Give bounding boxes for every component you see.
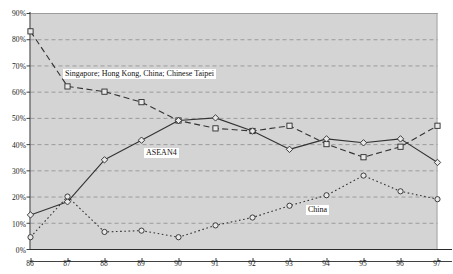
x-axis-tick-94: 94: [314, 259, 338, 268]
series-label-asean4: ASEAN4: [144, 148, 179, 158]
data-point-0-2: [102, 89, 107, 94]
data-point-2-8: [324, 193, 329, 198]
y-axis-tick-30: 30%: [2, 167, 26, 176]
chart-container: 90% 80% 70% 60% 50% 40% 30% 20% 10% 0% 8…: [0, 0, 453, 274]
data-point-2-6: [250, 215, 255, 220]
data-point-2-5: [213, 223, 218, 228]
x-axis-tick-97: 97: [425, 259, 449, 268]
x-axis-tick-91: 91: [203, 259, 227, 268]
y-axis-tick-70: 70%: [2, 62, 26, 71]
data-point-0-1: [65, 84, 70, 89]
data-point-2-0: [28, 235, 33, 240]
data-point-0-10: [398, 144, 403, 149]
y-axis-tick-80: 80%: [2, 35, 26, 44]
data-point-0-5: [213, 126, 218, 131]
data-point-2-4: [176, 235, 181, 240]
y-axis-tick-10: 10%: [2, 220, 26, 229]
data-point-0-7: [287, 123, 292, 128]
y-axis-tick-60: 60%: [2, 88, 26, 97]
x-axis-tick-86: 86: [18, 259, 42, 268]
y-axis-tick-0: 0%: [2, 246, 26, 255]
data-point-2-9: [361, 173, 366, 178]
x-axis-tick-96: 96: [388, 259, 412, 268]
x-axis-tick-95: 95: [351, 259, 375, 268]
x-axis-tick-89: 89: [129, 259, 153, 268]
x-axis-tick-93: 93: [277, 259, 301, 268]
data-point-2-3: [139, 228, 144, 233]
data-point-2-11: [435, 197, 440, 202]
data-point-2-1: [65, 194, 70, 199]
data-point-2-10: [398, 189, 403, 194]
x-axis-tick-88: 88: [92, 259, 116, 268]
data-point-0-0: [28, 29, 33, 34]
line-chart-plot: [0, 0, 453, 274]
series-label-china: China: [306, 205, 329, 215]
x-axis-tick-87: 87: [55, 259, 79, 268]
y-axis-tick-20: 20%: [2, 193, 26, 202]
data-point-0-3: [139, 100, 144, 105]
y-axis-tick-40: 40%: [2, 141, 26, 150]
data-point-0-11: [435, 123, 440, 128]
y-axis-tick-90: 90%: [2, 9, 26, 18]
data-point-0-9: [361, 155, 366, 160]
x-axis-tick-90: 90: [166, 259, 190, 268]
y-axis-tick-50: 50%: [2, 114, 26, 123]
data-point-2-7: [287, 203, 292, 208]
x-axis-tick-92: 92: [240, 259, 264, 268]
data-point-2-2: [102, 229, 107, 234]
series-label-nies: Singapore; Hong Kong, China; Chinese Tai…: [63, 69, 216, 79]
plot-background: [31, 13, 438, 249]
